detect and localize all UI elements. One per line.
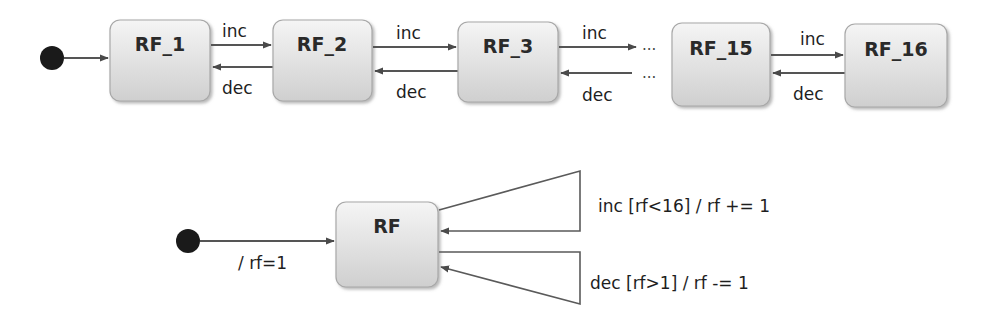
initial-node-icon (40, 46, 64, 70)
state-rf-3[interactable]: RF_3 (458, 22, 558, 102)
state-label: RF (373, 215, 401, 237)
self-loop-inc (439, 171, 580, 231)
self-loop-dec (439, 252, 580, 304)
state-machine-diagram: RF_1 inc dec RF_2 inc dec RF_3 inc ... d… (0, 0, 988, 326)
transition-label-dec: dec (222, 78, 253, 98)
state-label: RF_1 (135, 33, 185, 56)
transition-label-inc: inc (222, 21, 247, 41)
ellipsis-inc: ... (642, 36, 656, 54)
state-label: RF_16 (864, 38, 928, 61)
state-rf-15[interactable]: RF_15 (672, 23, 770, 106)
transition-label-dec: dec (582, 85, 613, 105)
state-rf-2[interactable]: RF_2 (273, 20, 372, 101)
transition-label-dec: dec (793, 84, 824, 104)
transition-label-inc: inc (582, 23, 607, 43)
state-rf-1[interactable]: RF_1 (110, 20, 210, 101)
bottom-machine: / rf=1 RF inc [rf<16] / rf += 1 dec [rf>… (176, 171, 770, 304)
state-label: RF_2 (297, 33, 347, 56)
state-rf-16[interactable]: RF_16 (845, 24, 947, 107)
self-loop-dec-label: dec [rf>1] / rf -= 1 (590, 273, 749, 293)
transition-label-inc: inc (396, 23, 421, 43)
state-label: RF_3 (483, 35, 533, 58)
top-chain: RF_1 inc dec RF_2 inc dec RF_3 inc ... d… (40, 20, 947, 107)
initial-node-icon (176, 229, 200, 253)
initial-transition-label: / rf=1 (238, 253, 287, 273)
state-label: RF_15 (689, 37, 753, 60)
ellipsis-dec: ... (642, 64, 656, 82)
transition-label-dec: dec (396, 82, 427, 102)
state-rf[interactable]: RF (336, 202, 438, 287)
transition-label-inc: inc (800, 29, 825, 49)
self-loop-inc-label: inc [rf<16] / rf += 1 (598, 196, 770, 216)
